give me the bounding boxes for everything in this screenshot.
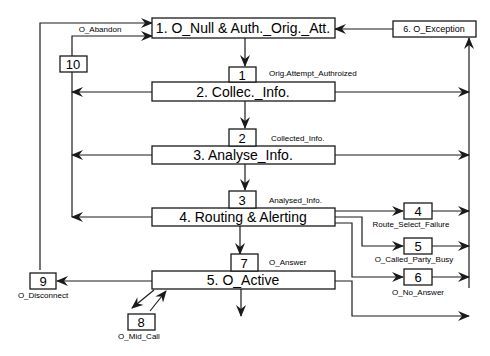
state-4-label: 4. Routing & Alerting — [179, 209, 307, 225]
dp-6-label: O_No_Answer — [392, 288, 444, 297]
dp-7: 7 O_Answer — [231, 254, 307, 271]
dp-9-label: O_Disconnect — [18, 291, 69, 300]
dp-4-number: 4 — [414, 204, 421, 219]
dp-10-label: O_Abandon — [79, 25, 122, 34]
dp-7-number: 7 — [240, 256, 247, 271]
dp-5: 5 O_Called_Party_Busy — [375, 238, 454, 264]
state-3-box: 3. Analyse_Info. — [152, 146, 335, 164]
state-4-box: 4. Routing & Alerting — [152, 208, 335, 226]
state-2-box: 2. Collec._Info. — [152, 82, 335, 101]
dp-5-number: 5 — [414, 239, 421, 254]
dp-9: 9 O_Disconnect — [18, 273, 69, 300]
state-5-label: 5. O_Active — [207, 272, 280, 288]
dp-4: 4 Route_Select_Failure — [373, 203, 450, 229]
state-2-label: 2. Collec._Info. — [196, 84, 289, 100]
dp-8-label: O_Mid_Call — [118, 332, 160, 341]
dp-7-label: O_Answer — [269, 258, 307, 267]
routing-to-dp6 — [335, 223, 403, 277]
state-6-box: 6. O_Exception — [393, 21, 476, 37]
dp-2-number: 2 — [238, 131, 245, 146]
dp-5-label: O_Called_Party_Busy — [375, 255, 454, 264]
state-6-label: 6. O_Exception — [403, 24, 465, 34]
dp-3: 3 Analysed_Info. — [229, 191, 322, 208]
dp-1: 1 Orig.Attempt_Authroized — [229, 67, 357, 83]
dp-2-label: Collected_Info. — [271, 134, 324, 143]
dp8-to-active — [150, 291, 166, 311]
state-5-box: 5. O_Active — [152, 271, 335, 289]
dp-8: 8 O_Mid_Call — [118, 314, 160, 341]
dp-6-number: 6 — [414, 270, 421, 285]
active-to-dp8 — [132, 290, 154, 308]
state-1-box: 1. O_Null & Auth._Orig._Att. — [152, 18, 335, 38]
dp-9-number: 9 — [39, 274, 46, 289]
dp-3-label: Analysed_Info. — [269, 196, 322, 205]
dp-8-number: 8 — [137, 315, 144, 330]
dp-3-number: 3 — [238, 193, 245, 208]
disconnect-return-line — [40, 23, 152, 270]
state-1-label: 1. O_Null & Auth._Orig._Att. — [156, 20, 330, 36]
dp-10: 10 O_Abandon — [60, 25, 121, 72]
dp-1-label: Orig.Attempt_Authroized — [269, 69, 357, 78]
dp-1-number: 1 — [238, 68, 245, 83]
dp-10-number: 10 — [66, 57, 80, 72]
dp-6: 6 O_No_Answer — [392, 269, 444, 297]
call-state-diagram: 1. O_Null & Auth._Orig._Att. 2. Collec._… — [0, 0, 490, 356]
dp-4-label: Route_Select_Failure — [373, 220, 450, 229]
dp-2: 2 Collected_Info. — [229, 129, 324, 146]
state-3-label: 3. Analyse_Info. — [193, 147, 293, 163]
active-exception-line — [335, 281, 469, 316]
